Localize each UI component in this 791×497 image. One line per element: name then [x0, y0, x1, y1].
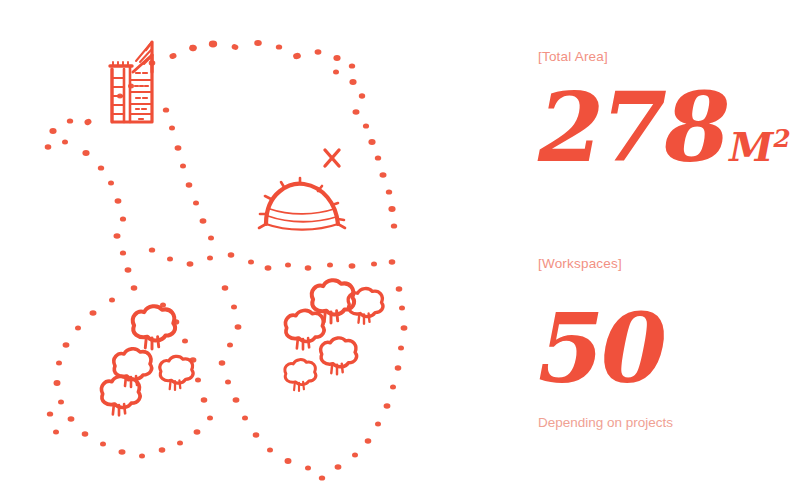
total-area-label: [Total Area] — [538, 48, 764, 66]
tree — [133, 306, 175, 349]
stat-total-area: [Total Area] 278M2 — [520, 48, 764, 175]
plot-divider-center — [163, 107, 214, 240]
total-area-unit: M2 — [729, 124, 790, 170]
plot-divider-mid — [149, 247, 396, 270]
total-area-value: 278M2 — [538, 80, 764, 175]
spot-marker-x — [325, 150, 339, 166]
map-canvas — [0, 0, 520, 497]
total-area-unit-text: M — [729, 124, 773, 170]
tree — [285, 360, 316, 391]
total-area-unit-exponent: 2 — [773, 124, 790, 153]
tower-building — [110, 42, 152, 122]
plot-north — [169, 40, 397, 229]
tree — [321, 338, 357, 374]
workspaces-value: 50 — [538, 301, 764, 396]
site-map-illustration — [0, 0, 520, 497]
tree-cluster-right — [285, 280, 383, 391]
tree — [285, 310, 324, 349]
dome-pavilion — [259, 178, 345, 230]
tree — [160, 356, 193, 390]
workspaces-note: Depending on projects — [538, 414, 764, 432]
plot-boundaries — [45, 40, 408, 481]
workspaces-label: [Workspaces] — [538, 255, 764, 273]
plot-southwest — [47, 285, 213, 458]
total-area-number: 278 — [538, 72, 727, 183]
stat-workspaces: [Workspaces] 50 Depending on projects — [520, 255, 764, 432]
stats-panel: [Total Area] 278M2 [Workspaces] 50 Depen… — [520, 0, 764, 497]
tree-cluster-left — [101, 306, 193, 415]
tree — [101, 376, 140, 415]
